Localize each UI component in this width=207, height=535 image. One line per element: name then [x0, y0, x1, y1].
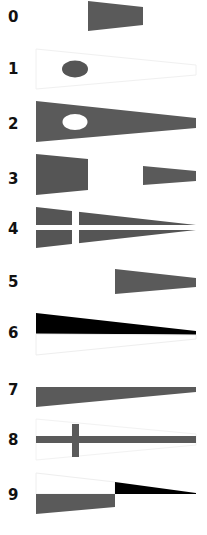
flag-2-icon: [36, 101, 196, 142]
flag-4-icon: [34, 204, 199, 252]
flags-canvas: [0, 0, 207, 535]
flag-8-icon: [36, 419, 196, 460]
flag-9-icon: [36, 473, 196, 514]
flag-1-icon: [36, 49, 196, 89]
flag-7-icon: [36, 387, 196, 407]
flag-5-icon: [115, 269, 196, 294]
flag-6-icon: [36, 313, 196, 355]
flag-3-icon: [36, 154, 196, 195]
flag-0-icon: [88, 1, 143, 31]
